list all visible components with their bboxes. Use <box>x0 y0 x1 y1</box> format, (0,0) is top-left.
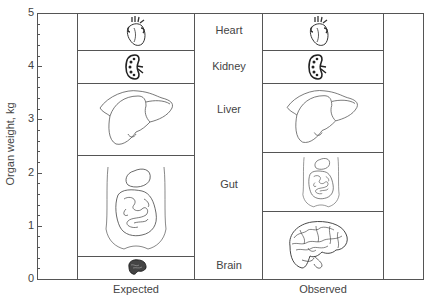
y-minor-tick <box>37 247 40 248</box>
y-minor-tick <box>37 194 40 195</box>
label-liver: Liver <box>195 103 263 115</box>
y-minor-tick <box>37 56 40 57</box>
y-axis-title: Organ weight, kg <box>4 94 16 194</box>
y-tick-label-1: 1 <box>20 219 34 231</box>
y-minor-tick <box>37 130 40 131</box>
y-minor-tick <box>37 258 40 259</box>
expected-kidney-liver-divider <box>77 83 195 84</box>
y-minor-tick <box>37 34 40 35</box>
y-tick-label-3: 3 <box>20 112 34 124</box>
label-brain: Brain <box>195 259 263 271</box>
liver-icon <box>284 86 364 148</box>
label-heart: Heart <box>195 24 263 36</box>
y-tick-2 <box>37 173 42 174</box>
heart-icon <box>124 16 148 48</box>
expected-right-edge <box>194 13 195 280</box>
expected-left-edge <box>77 13 78 280</box>
y-minor-tick <box>37 24 40 25</box>
x-label-observed: Observed <box>262 283 384 295</box>
y-minor-tick <box>37 268 40 269</box>
y-minor-tick <box>37 45 40 46</box>
gut-icon <box>301 156 341 208</box>
observed-liver-gut-divider <box>262 152 384 153</box>
observed-heart-kidney-divider <box>262 50 384 51</box>
y-minor-tick <box>37 162 40 163</box>
plot-bottom-border <box>37 279 424 280</box>
expected-liver-gut-divider <box>77 155 195 156</box>
y-tick-label-4: 4 <box>20 59 34 71</box>
brain-icon <box>286 218 350 272</box>
kidney-icon <box>125 53 145 81</box>
plot-top-border <box>37 13 424 14</box>
liver-icon <box>98 86 178 150</box>
y-tick-1 <box>37 226 42 227</box>
y-minor-tick <box>37 87 40 88</box>
expected-gut-brain-divider <box>77 256 195 257</box>
y-tick-label-0: 0 <box>20 272 34 284</box>
observed-kidney-liver-divider <box>262 83 384 84</box>
kidney-icon <box>308 53 328 81</box>
x-label-expected: Expected <box>77 283 195 295</box>
y-minor-tick <box>37 98 40 99</box>
brain-icon <box>127 259 147 276</box>
observed-right-edge <box>383 13 384 280</box>
y-minor-tick <box>37 141 40 142</box>
y-tick-label-2: 2 <box>20 166 34 178</box>
gut-icon <box>104 165 168 251</box>
label-kidney: Kidney <box>195 60 263 72</box>
y-minor-tick <box>37 109 40 110</box>
expected-heart-kidney-divider <box>77 50 195 51</box>
y-minor-tick <box>37 151 40 152</box>
y-axis-line <box>37 13 38 280</box>
y-tick-3 <box>37 119 42 120</box>
y-minor-tick <box>37 236 40 237</box>
y-minor-tick <box>37 205 40 206</box>
plot-right-border <box>423 13 424 280</box>
y-tick-label-5: 5 <box>20 6 34 18</box>
y-minor-tick <box>37 77 40 78</box>
y-tick-4 <box>37 66 42 67</box>
y-minor-tick <box>37 183 40 184</box>
label-gut: Gut <box>195 178 263 190</box>
y-minor-tick <box>37 215 40 216</box>
observed-gut-brain-divider <box>262 211 384 212</box>
heart-icon <box>307 16 331 48</box>
observed-left-edge <box>262 13 263 280</box>
